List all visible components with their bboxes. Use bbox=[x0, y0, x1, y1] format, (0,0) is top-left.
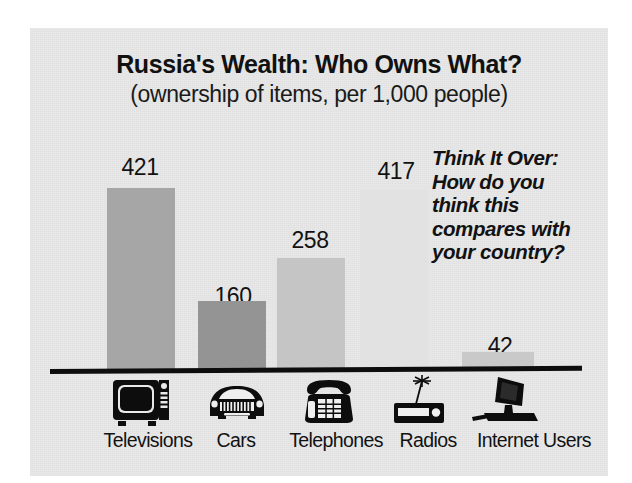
telephone-icon bbox=[300, 378, 358, 430]
think-it-over-note: Think It Over: How do you think this com… bbox=[432, 146, 592, 264]
television-icon bbox=[112, 378, 170, 430]
category-label-radios: Radios bbox=[385, 429, 471, 452]
icon-row bbox=[30, 376, 608, 430]
bar-cars bbox=[198, 301, 266, 370]
plot-area: 421 160 258 417 42 Think It Over: How do… bbox=[30, 28, 608, 476]
bar-value-telephones: 258 bbox=[262, 227, 358, 254]
chart-panel: Russia's Wealth: Who Owns What? (ownersh… bbox=[30, 28, 608, 476]
scanned-page: Russia's Wealth: Who Owns What? (ownersh… bbox=[0, 0, 632, 483]
think-it-over-heading: Think It Over: bbox=[432, 146, 592, 170]
radio-icon bbox=[392, 372, 452, 430]
bar-telephones bbox=[277, 258, 345, 370]
bar-value-televisions: 421 bbox=[92, 154, 188, 181]
think-it-over-body: How do you think this compares with your… bbox=[432, 170, 570, 264]
category-label-row: Televisions Cars Telephones Radios Inter… bbox=[30, 429, 608, 463]
bar-televisions bbox=[107, 188, 175, 370]
bar-radios bbox=[360, 190, 428, 370]
car-icon bbox=[206, 383, 268, 427]
computer-icon bbox=[472, 372, 544, 430]
category-label-internet-users: Internet Users bbox=[460, 429, 608, 452]
bar-value-radios: 417 bbox=[348, 158, 444, 185]
